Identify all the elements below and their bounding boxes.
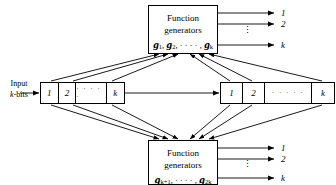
- input-label-line1: Input: [2, 78, 36, 89]
- input-label: Input k-bits: [2, 78, 36, 100]
- top-fg-title-line2: generators: [149, 25, 217, 35]
- bottom-fg-sep-1: , · · · · ,: [171, 175, 199, 185]
- left-register-cell-2[interactable]: 2: [59, 83, 77, 103]
- left-register-cell-ellipsis: · · · · ·: [76, 83, 106, 103]
- top-output-vertical-ellipsis: ⋮: [243, 29, 251, 32]
- right-register-cell-ellipsis: · · · · ·: [265, 83, 312, 103]
- figure-canvas: Input k-bits 1 2 · · · · · k 1 2 · · · ·…: [0, 0, 336, 185]
- left-register[interactable]: 1 2 · · · · · k: [40, 82, 125, 104]
- input-bits-text: -bits: [14, 90, 28, 99]
- bottom-fg-g2k-subscript: 2k: [205, 178, 212, 185]
- right-register-cell-1[interactable]: 1: [221, 83, 243, 103]
- top-output-label-k: k: [281, 40, 285, 50]
- bottom-fg-generator-list: gk+1, · · · · , g2k: [149, 175, 217, 185]
- bottom-output-label-2: 2: [281, 154, 286, 164]
- top-fg-sep-2: , · · · · ,: [176, 40, 204, 50]
- bottom-output-vertical-ellipsis: ⋮: [243, 163, 251, 166]
- top-output-label-1: 1: [281, 8, 286, 18]
- top-function-generators-box[interactable]: Function generators g1, g2, · · · · , gk: [148, 5, 218, 54]
- right-register-cell-k[interactable]: k: [312, 83, 334, 103]
- bottom-output-label-k: k: [281, 173, 285, 183]
- top-fg-gk-subscript: k: [210, 43, 213, 50]
- bottom-fg-title-line2: generators: [149, 160, 217, 170]
- left-register-cell-k[interactable]: k: [107, 83, 124, 103]
- bottom-fg-gk1-subscript: k+1: [161, 178, 171, 185]
- top-fg-title-line1: Function: [149, 13, 217, 23]
- top-output-label-2: 2: [281, 19, 286, 29]
- bottom-fg-title-line1: Function: [149, 148, 217, 158]
- bottom-output-label-1: 1: [281, 143, 286, 153]
- right-register-cell-2[interactable]: 2: [243, 83, 265, 103]
- top-fg-generator-list: g1, g2, · · · · , gk: [149, 40, 217, 50]
- left-register-cell-1[interactable]: 1: [41, 83, 59, 103]
- input-label-line2: k-bits: [2, 89, 36, 100]
- bottom-function-generators-box[interactable]: Function generators gk+1, · · · · , g2k: [148, 140, 218, 185]
- right-register[interactable]: 1 2 · · · · · k: [220, 82, 335, 104]
